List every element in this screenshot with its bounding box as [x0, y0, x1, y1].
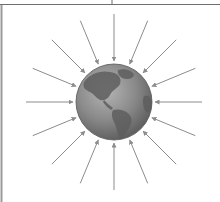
- arrow-icon: [130, 21, 148, 64]
- arrow-icon: [80, 21, 98, 64]
- arrow-icon: [143, 131, 176, 164]
- arrow-icon: [52, 131, 85, 164]
- arrow-icon: [33, 68, 76, 86]
- arrow-icon: [152, 118, 195, 136]
- arrow-icon: [143, 40, 176, 73]
- earth-inward-arrows-diagram: [0, 0, 220, 202]
- arrow-icon: [80, 140, 98, 183]
- arrow-icon: [33, 118, 76, 136]
- diagram-frame: [0, 0, 220, 202]
- arrow-icon: [52, 40, 85, 73]
- globe-icon: [76, 64, 152, 140]
- arrow-icon: [152, 68, 195, 86]
- arrow-icon: [130, 140, 148, 183]
